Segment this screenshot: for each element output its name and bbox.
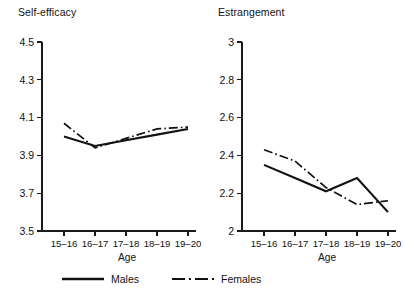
y-tick-label: 2.8 <box>219 74 234 86</box>
y-tick-label: 2 <box>228 225 234 237</box>
legend-item-males: Males <box>62 270 139 288</box>
legend-swatch-solid <box>62 273 104 285</box>
plot-area-estrangement: 32.82.62.42.2215–1616–1717–1818–1919–20A… <box>200 0 402 262</box>
legend-swatch-dashdot <box>172 273 214 285</box>
y-tick-label: 2.2 <box>219 187 234 199</box>
plot-area-self-efficacy: 4.54.34.13.93.73.515–1616–1717–1818–1919… <box>0 0 202 262</box>
y-tick-label: 2.6 <box>219 111 234 123</box>
x-tick-label: 19–20 <box>175 238 202 249</box>
series-line-females <box>64 123 188 148</box>
x-tick-label: 17–18 <box>113 238 140 249</box>
y-tick-label: 3.5 <box>19 225 34 237</box>
y-tick-label: 3.9 <box>19 149 34 161</box>
y-tick-label: 4.5 <box>19 36 34 48</box>
chart-panel-estrangement: Estrangement 32.82.62.42.2215–1616–1717–… <box>200 0 402 262</box>
y-tick-label: 2.4 <box>219 149 234 161</box>
x-tick-label: 18–19 <box>144 238 171 249</box>
y-tick-label: 3 <box>228 36 234 48</box>
legend-item-females: Females <box>172 270 261 288</box>
x-tick-label: 19–20 <box>375 238 402 249</box>
x-tick-label: 15–16 <box>251 238 278 249</box>
y-tick-label: 4.3 <box>19 74 34 86</box>
x-axis-label: Age <box>318 252 336 263</box>
legend-label-females: Females <box>221 273 261 285</box>
x-tick-label: 15–16 <box>51 238 78 249</box>
x-tick-label: 18–19 <box>344 238 371 249</box>
x-tick-label: 16–17 <box>82 238 109 249</box>
chart-legend: Males Females <box>0 264 405 295</box>
x-tick-label: 16–17 <box>282 238 309 249</box>
x-tick-label: 17–18 <box>313 238 340 249</box>
x-axis-label: Age <box>118 252 136 263</box>
chart-panel-self-efficacy: Self-efficacy 4.54.34.13.93.73.515–1616–… <box>0 0 202 262</box>
figure-chart-pair: Self-efficacy 4.54.34.13.93.73.515–1616–… <box>0 0 405 295</box>
y-tick-label: 3.7 <box>19 187 34 199</box>
series-line-females <box>264 150 388 205</box>
y-tick-label: 4.1 <box>19 111 34 123</box>
legend-label-males: Males <box>111 273 139 285</box>
